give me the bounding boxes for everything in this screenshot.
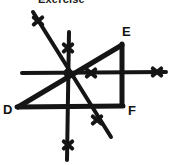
tick-center-horizontal xyxy=(87,69,95,76)
vertex-label-f: F xyxy=(128,104,136,117)
vertical-line xyxy=(67,32,69,160)
geometry-figure: Exercise D E F xyxy=(0,0,175,165)
tick-lower-vertical xyxy=(64,141,72,148)
tick-right-horizontal xyxy=(153,68,161,75)
vertex-label-d: D xyxy=(3,103,12,116)
figure-canvas xyxy=(0,0,175,165)
center-intersection-point xyxy=(64,69,73,78)
vertex-label-e: E xyxy=(122,25,131,38)
triangle-side-d-f xyxy=(17,106,123,107)
tick-lower-diagonal xyxy=(93,116,101,123)
tick-marks-group xyxy=(34,17,161,148)
tick-upper-vertical xyxy=(64,44,72,51)
segments-group xyxy=(17,12,166,160)
tick-upper-left-diagonal xyxy=(34,17,42,24)
